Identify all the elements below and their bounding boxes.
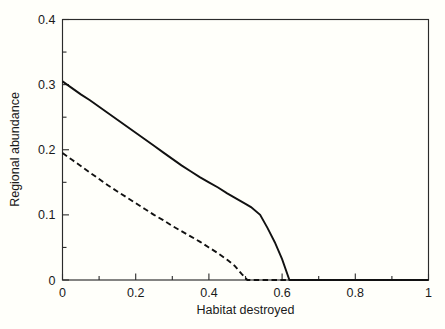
y-tick-label: 0 [49, 274, 56, 288]
x-tick-label: 0.6 [273, 286, 290, 300]
x-tick-label: 0.4 [200, 286, 217, 300]
y-tick-label: 0.4 [38, 13, 55, 27]
y-tick-label: 0.1 [38, 208, 55, 222]
x-tick-label: 1 [425, 286, 432, 300]
x-tick-label: 0.8 [347, 286, 364, 300]
chart-figure: 00.20.40.60.81 00.10.20.30.4 Habitat des… [0, 0, 445, 329]
y-tick-label: 0.3 [38, 78, 55, 92]
x-tick-label: 0 [59, 286, 66, 300]
chart-svg: 00.20.40.60.81 00.10.20.30.4 Habitat des… [0, 0, 445, 329]
x-tick-label: 0.2 [127, 286, 144, 300]
y-tick-label: 0.2 [38, 143, 55, 157]
x-axis-title: Habitat destroyed [197, 303, 295, 317]
y-axis-title: Regional abundance [8, 92, 22, 207]
